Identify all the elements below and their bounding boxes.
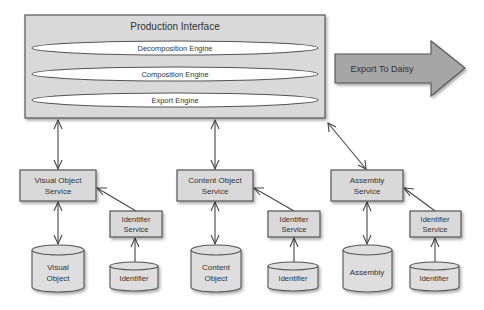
- identifier-store-3-label: Identifier: [420, 274, 449, 283]
- cylinder-top: [410, 262, 459, 270]
- identifier-service-3-label-line2: Service: [422, 225, 447, 234]
- assembly-store-label: Assembly: [350, 268, 385, 277]
- architecture-diagram: Production Interface Decomposition Engin…: [0, 0, 484, 310]
- identifier-service-1-label-line2: Service: [123, 225, 148, 234]
- assembly-service-box: [331, 170, 403, 201]
- identifier-service-3: Identifier Service: [410, 211, 461, 237]
- export-to-daisy-arrow: Export To Daisy: [335, 41, 465, 96]
- decomposition-engine: Decomposition Engine: [32, 41, 318, 55]
- connector-idservice1-visual-service: [97, 188, 136, 211]
- content-object-store-label-line1: Content: [202, 263, 231, 272]
- cylinder-top: [110, 262, 158, 270]
- production-interface-title: Production Interface: [130, 21, 220, 32]
- visual-object-service-label-line1: Visual Object: [35, 176, 83, 185]
- export-engine: Export Engine: [32, 93, 318, 107]
- cylinder-top: [32, 245, 84, 255]
- visual-object-service-box: [20, 170, 96, 201]
- identifier-service-1-label-line1: Identifier: [122, 215, 151, 224]
- visual-object-service-label-line2: Service: [45, 187, 72, 196]
- identifier-service-3-label-line1: Identifier: [421, 215, 450, 224]
- content-object-service-label-line2: Service: [202, 187, 229, 196]
- assembly-service-label-line2: Service: [354, 187, 381, 196]
- identifier-store-2-label: Identifier: [279, 274, 308, 283]
- cylinder-top: [268, 262, 318, 270]
- connector-idservice2-content-service: [254, 188, 294, 211]
- content-object-store-label-line2: Object: [204, 274, 228, 283]
- identifier-service-2-label-line1: Identifier: [280, 215, 309, 224]
- identifier-store-1-label: Identifier: [120, 274, 149, 283]
- decomposition-engine-label: Decomposition Engine: [137, 44, 212, 53]
- composition-engine-label: Composition Engine: [141, 70, 208, 79]
- connector-idservice3-assembly-service: [404, 188, 435, 211]
- assembly-service: Assembly Service: [331, 170, 403, 201]
- identifier-service-2: Identifier Service: [268, 211, 320, 237]
- export-engine-label: Export Engine: [151, 96, 198, 105]
- composition-engine: Composition Engine: [32, 67, 318, 81]
- visual-object-service: Visual Object Service: [20, 170, 96, 201]
- assembly-service-label-line1: Assembly: [350, 176, 385, 185]
- visual-object-store-label-line2: Object: [46, 274, 70, 283]
- cylinder-top: [343, 245, 392, 255]
- content-object-service-box: [177, 170, 253, 201]
- cylinder-top: [191, 245, 241, 255]
- content-object-service-label-line1: Content Object: [188, 176, 242, 185]
- content-object-service: Content Object Service: [177, 170, 253, 201]
- production-interface: Production Interface Decomposition Engin…: [25, 15, 325, 118]
- connector-pi-assembly-service: [328, 123, 366, 169]
- identifier-service-1: Identifier Service: [110, 211, 162, 237]
- visual-object-store-label-line1: Visual: [47, 263, 69, 272]
- identifier-service-2-label-line2: Service: [281, 225, 306, 234]
- export-to-daisy-label: Export To Daisy: [351, 64, 414, 74]
